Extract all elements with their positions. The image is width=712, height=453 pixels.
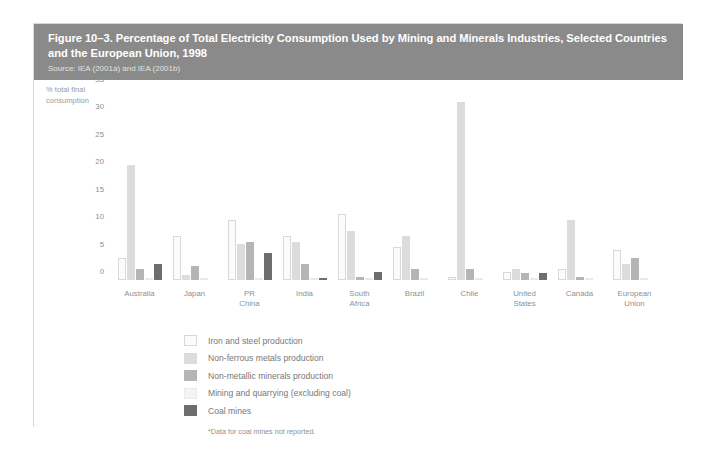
bar-group: United States: [497, 88, 552, 280]
bar: [631, 258, 639, 280]
legend-item-label: Mining and quarrying (excluding coal): [208, 388, 351, 398]
bar-group-bars: [607, 88, 662, 280]
bar: [365, 278, 373, 280]
bar: [292, 242, 300, 280]
bar-group-bars: [112, 88, 167, 280]
bar: [411, 269, 419, 280]
y-axis-tick: 15: [95, 184, 104, 193]
bar: [246, 242, 254, 280]
bar: [530, 278, 538, 280]
x-axis-tick-label: PR China: [236, 289, 264, 309]
bar: [347, 231, 355, 280]
x-axis-tick-label: Brazil: [405, 289, 425, 299]
bar-group-bars: [332, 88, 387, 280]
bar: [521, 273, 529, 280]
y-axis-tick: 25: [95, 129, 104, 138]
bar: [539, 273, 547, 280]
legend-item-label: Non-metallic minerals production: [208, 371, 333, 381]
legend-item: Coal mines: [184, 402, 514, 420]
legend-item-label: Non-ferrous metals production: [208, 353, 324, 363]
bar: [182, 275, 190, 280]
legend-footnote: *Data for coal mines not reported.: [208, 427, 514, 436]
bar: [118, 258, 126, 280]
bar-group: Chile: [442, 88, 497, 280]
bar: [512, 269, 520, 280]
bar-group-bars: [497, 88, 552, 280]
bar: [145, 278, 153, 280]
bar-group: European Union: [607, 88, 662, 280]
legend-swatch-icon: [184, 335, 197, 346]
plot-area: % total final consumption 05101520253035…: [34, 80, 683, 427]
figure-source: Source: IEA (2001a) and IEA (2001b): [48, 63, 671, 74]
bar-group: India: [277, 88, 332, 280]
legend-swatch-icon: [184, 405, 197, 416]
bar: [640, 278, 648, 280]
bar-group: Canada: [552, 88, 607, 280]
legend-item: Non-metallic minerals production: [184, 367, 514, 385]
legend-swatch-icon: [184, 388, 197, 399]
bar: [154, 264, 162, 280]
x-axis-tick-label: Canada: [566, 289, 593, 299]
y-axis-tick: 5: [100, 239, 104, 248]
bar: [127, 165, 135, 280]
x-axis-tick-label: Japan: [184, 289, 205, 299]
bar-group: PR China: [222, 88, 277, 280]
y-axis-tick: 30: [95, 102, 104, 111]
bar: [301, 264, 309, 280]
bar: [356, 277, 364, 280]
bar: [310, 278, 318, 280]
bar: [466, 269, 474, 280]
bar: [237, 244, 245, 280]
bar: [283, 236, 291, 280]
figure-title: Figure 10–3. Percentage of Total Electri…: [48, 31, 671, 60]
bar: [264, 253, 272, 280]
y-axis-tick: 10: [95, 212, 104, 221]
legend-item-label: Coal mines: [208, 406, 251, 416]
x-axis-tick-label: European Union: [618, 289, 652, 309]
bar: [475, 278, 483, 280]
bar: [136, 269, 144, 280]
x-axis-tick-label: South Africa: [346, 289, 374, 309]
bar: [567, 220, 575, 280]
bar: [585, 278, 593, 280]
bar: [402, 236, 410, 280]
bar-chart: 05101520253035AustraliaJapanPR ChinaIndi…: [112, 88, 662, 280]
x-axis-tick-label: Chile: [461, 289, 479, 299]
bar-group: Brazil: [387, 88, 442, 280]
bar: [576, 277, 584, 280]
y-axis-tick: 35: [95, 75, 104, 84]
bar-group-bars: [277, 88, 332, 280]
y-axis-tick: 0: [100, 267, 104, 276]
bar: [255, 278, 263, 280]
bar: [503, 272, 511, 280]
bar: [228, 220, 236, 280]
figure-root: Figure 10–3. Percentage of Total Electri…: [0, 0, 712, 453]
figure-box: Figure 10–3. Percentage of Total Electri…: [33, 23, 682, 427]
bar: [420, 278, 428, 280]
bar-group-bars: [442, 88, 497, 280]
bar: [613, 250, 621, 280]
bar: [457, 102, 465, 280]
bar-group: Japan: [167, 88, 222, 280]
legend-swatch-icon: [184, 353, 197, 364]
legend-item: Iron and steel production: [184, 332, 514, 350]
x-axis-tick-label: United States: [511, 289, 539, 309]
bar-group-bars: [552, 88, 607, 280]
bar: [622, 264, 630, 280]
figure-header-band: Figure 10–3. Percentage of Total Electri…: [34, 24, 683, 80]
bar-group: Australia: [112, 88, 167, 280]
bar: [558, 269, 566, 280]
y-axis-tick: 20: [95, 157, 104, 166]
x-axis-tick-label: India: [296, 289, 313, 299]
bar: [319, 278, 327, 280]
bar-group-bars: [222, 88, 277, 280]
bar: [191, 266, 199, 280]
bar: [200, 278, 208, 280]
legend-item: Non-ferrous metals production: [184, 350, 514, 368]
bar-group: South Africa: [332, 88, 387, 280]
bar: [393, 247, 401, 280]
legend-swatch-icon: [184, 370, 197, 381]
bar: [338, 214, 346, 280]
chart-legend: Iron and steel productionNon-ferrous met…: [184, 332, 514, 436]
bar: [448, 277, 456, 280]
